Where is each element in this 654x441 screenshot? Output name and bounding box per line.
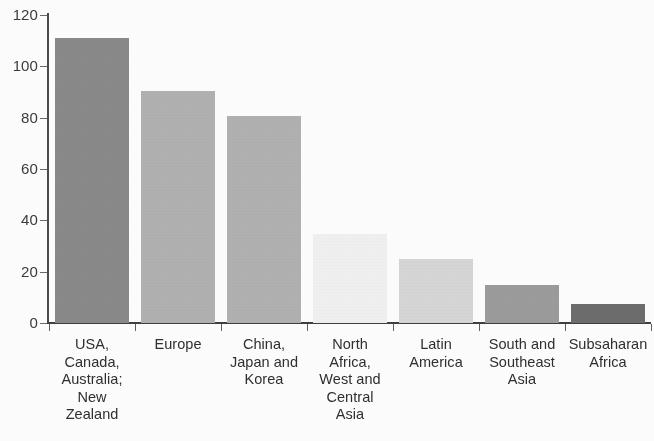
x-axis-category-label: Europe bbox=[135, 336, 221, 354]
bar-texture bbox=[485, 285, 559, 324]
y-axis-tick-label: 40 bbox=[0, 212, 38, 227]
bar[interactable] bbox=[55, 38, 129, 323]
x-axis-tick bbox=[221, 324, 222, 331]
y-axis-tick-label: 0 bbox=[0, 315, 38, 330]
x-axis-tick bbox=[307, 324, 308, 331]
bar-texture bbox=[141, 91, 215, 323]
bar-texture bbox=[571, 304, 645, 323]
y-axis-tick-label: 20 bbox=[0, 264, 38, 279]
x-axis-category-label: China, Japan and Korea bbox=[221, 336, 307, 389]
x-axis-category-label: Subsaharan Africa bbox=[565, 336, 651, 371]
y-axis-tick bbox=[40, 272, 47, 273]
bar-texture bbox=[313, 234, 387, 323]
y-axis-tick bbox=[40, 169, 47, 170]
y-axis-tick-label: 80 bbox=[0, 110, 38, 125]
bars-container bbox=[47, 15, 652, 323]
y-axis-tick bbox=[40, 66, 47, 67]
bar-texture bbox=[227, 116, 301, 323]
x-axis-tick bbox=[135, 324, 136, 331]
x-axis-tick bbox=[49, 324, 50, 331]
bar-chart: 120100806040200 USA, Canada, Australia; … bbox=[0, 0, 654, 441]
x-axis-category-label: North Africa, West and Central Asia bbox=[307, 336, 393, 424]
bar-texture bbox=[399, 259, 473, 323]
y-axis-tick bbox=[40, 323, 47, 324]
y-axis-tick-label: 100 bbox=[0, 58, 38, 73]
bar-texture bbox=[55, 38, 129, 323]
x-axis-category-label: USA, Canada, Australia; New Zealand bbox=[49, 336, 135, 424]
x-axis-tick bbox=[651, 324, 652, 331]
x-axis-tick bbox=[565, 324, 566, 331]
y-axis-tick-label: 120 bbox=[0, 7, 38, 22]
bar[interactable] bbox=[227, 116, 301, 323]
y-axis-tick-label: 60 bbox=[0, 161, 38, 176]
x-axis-category-label: South and Southeast Asia bbox=[479, 336, 565, 389]
bar[interactable] bbox=[399, 259, 473, 323]
y-axis-tick bbox=[40, 220, 47, 221]
bar[interactable] bbox=[571, 304, 645, 323]
x-axis-tick bbox=[479, 324, 480, 331]
x-axis-tick bbox=[393, 324, 394, 331]
bar[interactable] bbox=[313, 234, 387, 323]
y-axis-tick bbox=[40, 15, 47, 16]
bar[interactable] bbox=[141, 91, 215, 323]
x-axis-category-label: Latin America bbox=[393, 336, 479, 371]
bar[interactable] bbox=[485, 285, 559, 324]
y-axis-tick bbox=[40, 118, 47, 119]
